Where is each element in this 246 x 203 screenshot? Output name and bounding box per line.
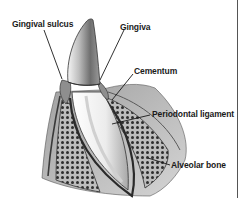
leader-gingiva — [100, 30, 124, 80]
label-cementum: Cementum — [134, 67, 177, 76]
leader-gingival-sulcus — [44, 30, 62, 79]
label-gingival-sulcus: Gingival sulcus — [12, 20, 73, 29]
frame-border-right — [237, 0, 238, 198]
label-gingiva: Gingiva — [120, 23, 150, 32]
label-periodontal-ligament: Periodontal ligament — [152, 110, 234, 119]
tooth-anatomy-diagram: Gingival sulcus Gingiva Cementum Periodo… — [0, 0, 246, 203]
label-alveolar-bone: Alveolar bone — [171, 161, 226, 170]
